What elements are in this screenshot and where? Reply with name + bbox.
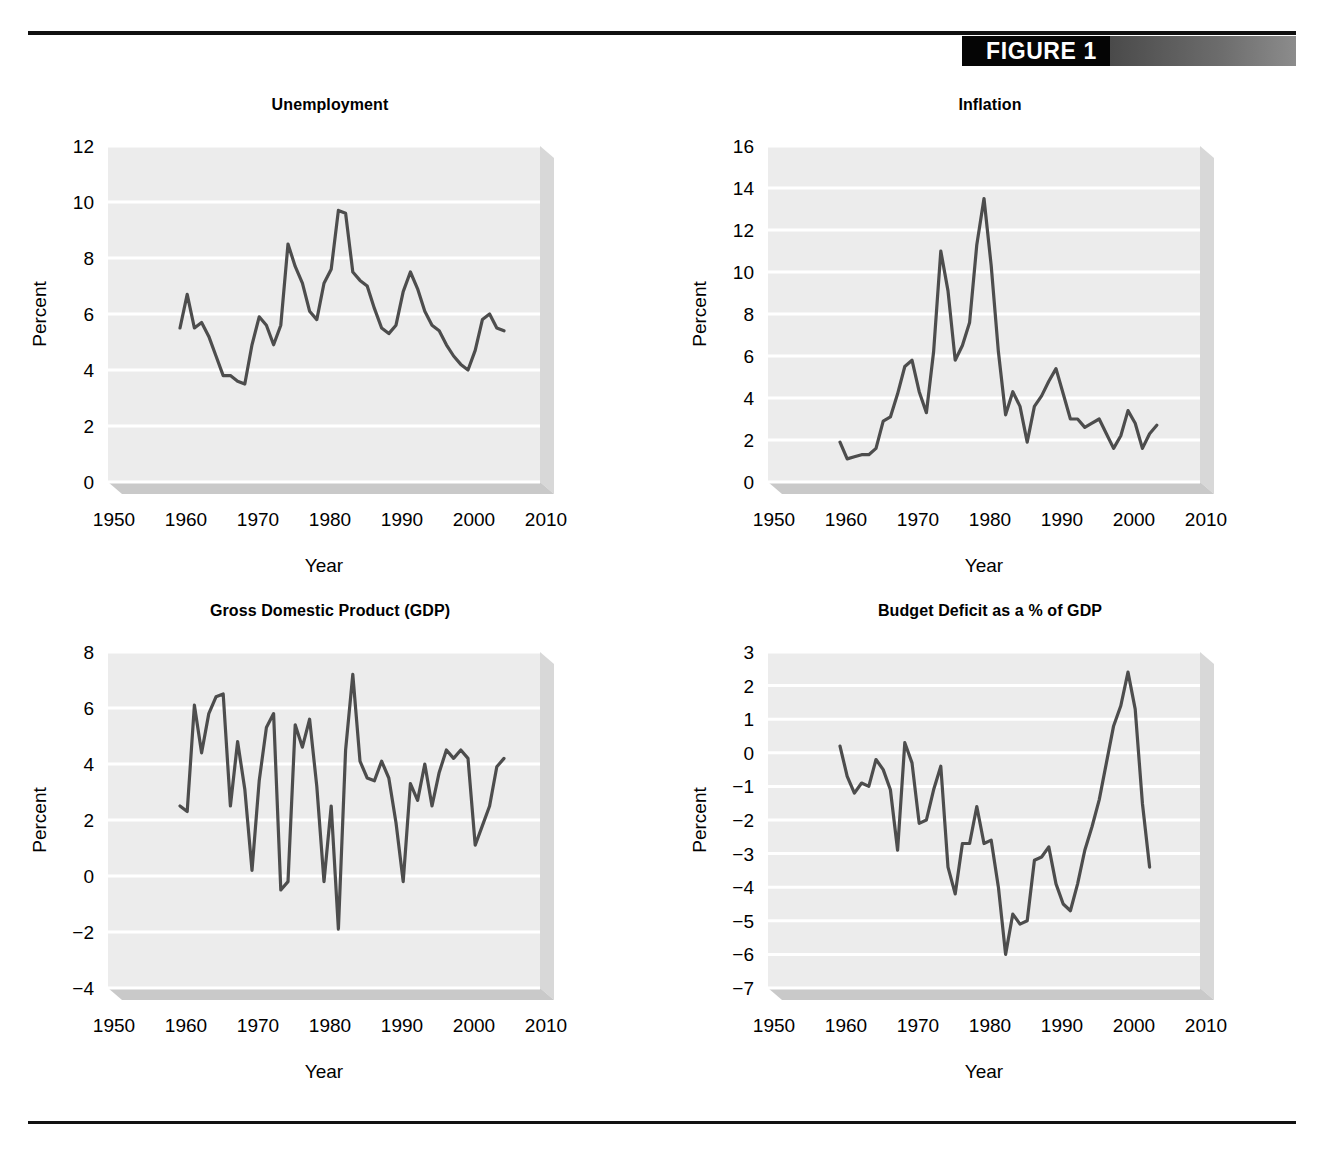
svg-text:6: 6 — [83, 698, 94, 719]
svg-text:4: 4 — [743, 388, 754, 409]
svg-text:0: 0 — [743, 743, 754, 764]
svg-text:−4: −4 — [72, 978, 94, 999]
svg-text:8: 8 — [83, 642, 94, 663]
svg-text:−6: −6 — [732, 944, 754, 965]
svg-text:16: 16 — [733, 136, 754, 157]
svg-text:4: 4 — [83, 754, 94, 775]
svg-text:1970: 1970 — [237, 509, 279, 530]
svg-text:−2: −2 — [732, 810, 754, 831]
svg-text:1970: 1970 — [237, 1015, 279, 1036]
svg-text:−3: −3 — [732, 844, 754, 865]
svg-text:1960: 1960 — [825, 1015, 867, 1036]
svg-text:2010: 2010 — [1185, 1015, 1227, 1036]
chart-panel-gdp: Gross Domestic Product (GDP) −4−20246819… — [0, 584, 660, 1090]
svg-text:3: 3 — [743, 642, 754, 663]
svg-text:−4: −4 — [732, 877, 754, 898]
svg-text:1980: 1980 — [969, 1015, 1011, 1036]
svg-text:0: 0 — [83, 472, 94, 493]
svg-text:−5: −5 — [732, 911, 754, 932]
svg-text:1960: 1960 — [825, 509, 867, 530]
svg-text:2: 2 — [743, 430, 754, 451]
svg-text:−1: −1 — [732, 776, 754, 797]
svg-text:8: 8 — [83, 248, 94, 269]
svg-text:1960: 1960 — [165, 1015, 207, 1036]
svg-text:0: 0 — [743, 472, 754, 493]
svg-text:2010: 2010 — [525, 509, 567, 530]
svg-text:1: 1 — [743, 709, 754, 730]
svg-text:1980: 1980 — [309, 509, 351, 530]
svg-text:Year: Year — [965, 555, 1004, 576]
chart-panel-unemployment: Unemployment 024681012195019601970198019… — [0, 78, 660, 584]
svg-text:2000: 2000 — [453, 509, 495, 530]
chart-plot-budget-deficit: −7−6−5−4−3−2−101231950196019701980199020… — [660, 584, 1320, 1090]
top-rule — [28, 31, 1296, 35]
svg-text:12: 12 — [73, 136, 94, 157]
svg-text:6: 6 — [743, 346, 754, 367]
svg-text:12: 12 — [733, 220, 754, 241]
svg-text:Percent: Percent — [689, 281, 710, 347]
svg-text:2000: 2000 — [1113, 1015, 1155, 1036]
svg-text:4: 4 — [83, 360, 94, 381]
svg-text:2010: 2010 — [1185, 509, 1227, 530]
svg-text:2010: 2010 — [525, 1015, 567, 1036]
svg-text:1950: 1950 — [753, 509, 795, 530]
svg-text:−7: −7 — [732, 978, 754, 999]
svg-text:Year: Year — [305, 555, 344, 576]
svg-text:2000: 2000 — [453, 1015, 495, 1036]
svg-text:1970: 1970 — [897, 1015, 939, 1036]
svg-text:1990: 1990 — [381, 509, 423, 530]
svg-text:1990: 1990 — [381, 1015, 423, 1036]
svg-text:2: 2 — [83, 416, 94, 437]
chart-panel-budget-deficit: Budget Deficit as a % of GDP −7−6−5−4−3−… — [660, 584, 1320, 1090]
svg-text:Year: Year — [305, 1061, 344, 1082]
svg-text:Percent: Percent — [29, 787, 50, 853]
svg-text:14: 14 — [733, 178, 755, 199]
svg-text:1980: 1980 — [969, 509, 1011, 530]
svg-text:2: 2 — [83, 810, 94, 831]
svg-text:1970: 1970 — [897, 509, 939, 530]
svg-text:0: 0 — [83, 866, 94, 887]
figure-label: FIGURE 1 — [986, 38, 1126, 64]
svg-text:2: 2 — [743, 676, 754, 697]
svg-text:1960: 1960 — [165, 509, 207, 530]
svg-text:1950: 1950 — [93, 1015, 135, 1036]
chart-plot-gdp: −4−2024681950196019701980199020002010Per… — [0, 584, 660, 1090]
svg-text:8: 8 — [743, 304, 754, 325]
svg-text:1990: 1990 — [1041, 1015, 1083, 1036]
chart-plot-unemployment: 0246810121950196019701980199020002010Per… — [0, 78, 660, 584]
svg-text:−2: −2 — [72, 922, 94, 943]
svg-text:1950: 1950 — [93, 509, 135, 530]
svg-text:2000: 2000 — [1113, 509, 1155, 530]
svg-text:Percent: Percent — [689, 787, 710, 853]
chart-panel-inflation: Inflation 024681012141619501960197019801… — [660, 78, 1320, 584]
svg-text:1990: 1990 — [1041, 509, 1083, 530]
svg-text:10: 10 — [73, 192, 94, 213]
svg-text:10: 10 — [733, 262, 754, 283]
chart-plot-inflation: 0246810121416195019601970198019902000201… — [660, 78, 1320, 584]
bottom-rule — [28, 1121, 1296, 1124]
svg-text:Percent: Percent — [29, 281, 50, 347]
svg-text:1950: 1950 — [753, 1015, 795, 1036]
svg-text:Year: Year — [965, 1061, 1004, 1082]
figure-page: FIGURE 1 Unemployment 024681012195019601… — [0, 0, 1320, 1169]
svg-text:1980: 1980 — [309, 1015, 351, 1036]
chart-grid: Unemployment 024681012195019601970198019… — [0, 78, 1320, 1090]
svg-text:6: 6 — [83, 304, 94, 325]
